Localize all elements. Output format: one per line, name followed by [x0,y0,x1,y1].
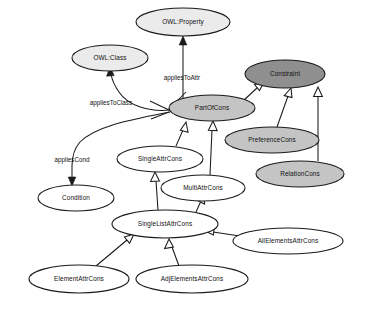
edge-multiattr-partofcons [210,130,212,175]
node-single-attr-cons-label: SingleAttrCons [138,155,182,163]
edge-allelements-singlelist [213,232,240,236]
edge-label-applies-cond: appliesCond [54,156,90,164]
edge-singlelist-singleattr [156,181,158,210]
node-preference-cons[interactable]: PreferenceCons [225,127,319,153]
node-multi-attr-cons[interactable]: MultiAttrCons [161,175,245,201]
node-constraint[interactable]: Constraint [245,60,325,88]
edge-adjelements-singlelist [172,247,179,266]
node-adj-elements-attr-cons[interactable]: AdjElementsAttrCons [136,265,248,293]
arrowhead-multiattr-partofcons [208,121,217,131]
node-preference-cons-label: PreferenceCons [248,136,296,143]
edge-preferencecons-constraint [277,96,288,127]
arrowhead-adjelements-singlelist [165,239,174,249]
diagram-canvas-container: OWL:Property OWL:Class Constraint PartOf… [0,0,379,315]
node-owl-class-label: OWL:Class [93,54,126,61]
edge-elementattr-singlelist [96,240,127,266]
node-all-elements-attr-cons-label: AllElementsAttrCons [258,237,319,244]
edge-stub-mid [150,101,169,110]
uml-diagram: OWL:Property OWL:Class Constraint PartOf… [0,0,379,315]
node-element-attr-cons-label: ElementAttrCons [54,275,104,282]
edge-partofcons-constraint [243,87,258,101]
arrowhead-relationcons-constraint [314,87,323,97]
edge-singleattr-partofcons [176,130,183,146]
arrowhead-singleattr-partofcons [180,122,188,132]
node-part-of-cons-label: PartOfCons [195,104,229,111]
node-single-list-attr-cons-label: SingleListAttrCons [138,220,192,228]
node-part-of-cons[interactable]: PartOfCons [169,95,255,121]
node-owl-property[interactable]: OWL:Property [136,8,230,36]
edge-singlelist-multiattr [196,201,201,212]
node-condition[interactable]: Condition [38,185,114,211]
arrowhead-singlelist-singleattr [151,172,160,181]
edge-label-applies-to-attr: appliesToAttr [164,74,200,82]
arrowhead-applies-to-attr [179,36,187,45]
node-element-attr-cons[interactable]: ElementAttrCons [29,265,129,293]
edge-label-applies-to-class: appliesToClass [90,99,132,107]
node-constraint-label: Constraint [270,70,300,77]
arrowhead-preferencecons-constraint [284,88,292,98]
node-single-list-attr-cons[interactable]: SingleListAttrCons [112,210,218,238]
node-adj-elements-attr-cons-label: AdjElementsAttrCons [161,275,224,283]
node-condition-label: Condition [62,194,90,201]
node-single-attr-cons[interactable]: SingleAttrCons [117,146,203,172]
node-layer: OWL:Property OWL:Class Constraint PartOf… [29,8,344,293]
node-owl-property-label: OWL:Property [162,18,204,26]
node-all-elements-attr-cons[interactable]: AllElementsAttrCons [233,228,343,254]
node-owl-class[interactable]: OWL:Class [72,45,148,71]
node-relation-cons[interactable]: RelationCons [256,161,344,187]
node-multi-attr-cons-label: MultiAttrCons [183,184,223,191]
node-relation-cons-label: RelationCons [280,170,320,177]
